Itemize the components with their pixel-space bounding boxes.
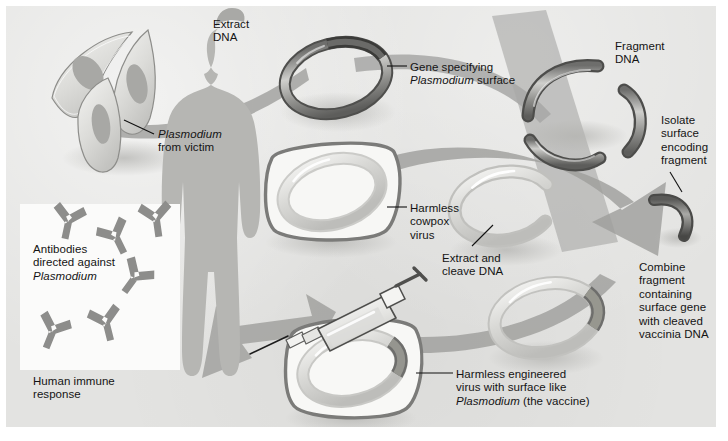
- label-harmless-cowpox: Harmlesscowpoxvirus: [410, 202, 459, 242]
- label-antibodies: Antibodiesdirected againstPlasmodium: [33, 243, 115, 283]
- label-fragment-dna: FragmentDNA: [615, 40, 665, 67]
- diagram-panel: ExtractDNAGene specifyingPlasmodium surf…: [6, 6, 716, 427]
- leader-cleave: [472, 225, 493, 246]
- leader-isolate: [670, 172, 682, 192]
- label-extract-dna: ExtractDNA: [213, 18, 249, 45]
- label-extract-cleave: Extract andcleave DNA: [442, 252, 503, 279]
- leader-lines: [6, 6, 716, 427]
- label-plasmodium-victim: Plasmodiumfrom victim: [158, 128, 222, 155]
- label-harmless-engineered: Harmless engineeredvirus with surface li…: [456, 368, 590, 408]
- figure-root: ExtractDNAGene specifyingPlasmodium surf…: [0, 0, 728, 441]
- label-combine-fragment: Combinefragmentcontainingsurface genewit…: [639, 261, 709, 341]
- label-gene-specifying: Gene specifyingPlasmodium surface: [410, 61, 515, 88]
- label-isolate-fragment: Isolatesurfaceencodingfragment: [661, 114, 708, 168]
- label-human-immune: Human immuneresponse: [33, 375, 115, 402]
- leader-plasmodium: [124, 120, 154, 134]
